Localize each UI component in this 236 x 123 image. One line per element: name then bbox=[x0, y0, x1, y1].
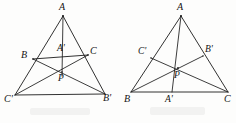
right-label-A-prime: A' bbox=[165, 95, 173, 105]
figure-root: A B C A' P C' B' A B C C' B' P A' bbox=[0, 0, 236, 123]
left-cevian-C-Cprime bbox=[15, 55, 88, 95]
right-point-P bbox=[177, 67, 179, 69]
left-point-B bbox=[32, 58, 34, 60]
left-label-A: A bbox=[59, 2, 65, 12]
right-point-Cprime bbox=[150, 57, 151, 58]
left-edge-B-C bbox=[33, 55, 88, 59]
geometry-canvas bbox=[0, 0, 236, 123]
right-point-Bprime bbox=[202, 55, 203, 56]
right-label-B: B bbox=[124, 94, 130, 104]
right-point-A bbox=[180, 15, 182, 17]
right-label-B-prime: B' bbox=[205, 45, 213, 55]
left-edge-Cprime-Bprime bbox=[15, 94, 105, 95]
left-point-A bbox=[62, 15, 64, 17]
left-label-C: C bbox=[90, 46, 97, 56]
left-label-A-prime: A' bbox=[57, 44, 65, 54]
right-label-P: P bbox=[174, 71, 180, 81]
left-label-P: P bbox=[58, 74, 64, 84]
left-cevian-B-Bprime bbox=[33, 59, 105, 94]
right-label-C-prime: C' bbox=[138, 47, 146, 57]
right-cevian-B-Bprime bbox=[131, 56, 203, 92]
right-label-C: C bbox=[224, 94, 231, 104]
right-label-A: A bbox=[177, 2, 183, 12]
left-point-C bbox=[87, 54, 89, 56]
left-label-C-prime: C' bbox=[4, 94, 13, 104]
left-label-B: B bbox=[21, 50, 27, 60]
left-label-B-prime: B' bbox=[103, 93, 111, 103]
